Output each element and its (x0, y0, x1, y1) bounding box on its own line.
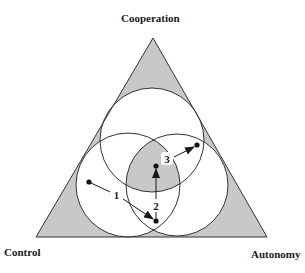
diagram-canvas: 1 2 3 (0, 0, 305, 273)
point-start (86, 179, 91, 184)
triangle-diagram: 1 2 3 Cooperation Control Autonomy (0, 0, 305, 273)
arrow-3-label: 3 (164, 153, 170, 165)
label-control: Control (4, 246, 40, 258)
point-end (194, 142, 199, 147)
arrow-2-label: 2 (153, 200, 159, 212)
label-autonomy: Autonomy (251, 248, 301, 260)
point-bottom-intersection (153, 218, 158, 223)
point-center (153, 163, 158, 168)
arrow-1-label: 1 (114, 189, 120, 201)
label-cooperation: Cooperation (121, 12, 180, 24)
